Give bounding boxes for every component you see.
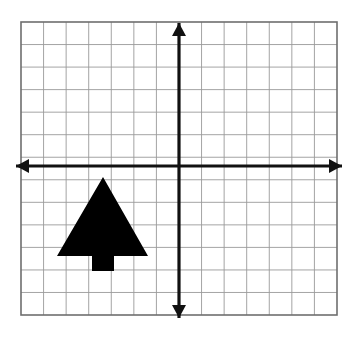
coordinate-grid-figure	[0, 0, 356, 339]
coordinate-plane	[0, 0, 356, 339]
